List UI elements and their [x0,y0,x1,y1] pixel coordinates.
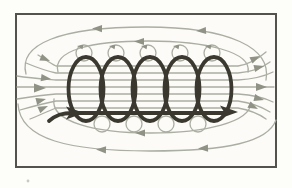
solenoid-field-diagram [0,0,292,188]
solenoid-field-figure [0,0,292,188]
scan-artifact [27,180,30,183]
